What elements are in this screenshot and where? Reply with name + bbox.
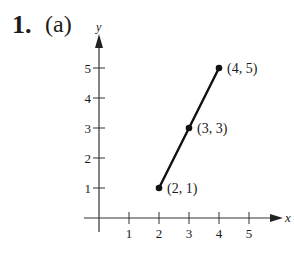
data-point — [186, 125, 193, 132]
y-tick-label: 3 — [85, 121, 92, 136]
x-tick-label: 4 — [216, 226, 223, 241]
x-tick-label: 1 — [126, 226, 133, 241]
data-point — [216, 65, 223, 72]
y-tick-label: 2 — [85, 151, 92, 166]
point-label: (2, 1) — [167, 181, 198, 197]
point-label: (3, 3) — [197, 121, 228, 137]
y-tick-label: 1 — [85, 181, 92, 196]
y-tick-label: 5 — [85, 61, 92, 76]
data-point — [156, 185, 163, 192]
ticks: 1234512345 — [85, 61, 253, 241]
y-tick-label: 4 — [85, 91, 92, 106]
x-tick-label: 2 — [156, 226, 163, 241]
y-axis-label: y — [95, 20, 102, 34]
x-axis-label: x — [284, 210, 291, 225]
x-tick-label: 3 — [186, 226, 193, 241]
y-axis-arrow-icon — [95, 34, 103, 48]
x-tick-label: 5 — [246, 226, 253, 241]
point-label: (4, 5) — [227, 61, 258, 77]
coordinate-plot: xy 1234512345 (2, 1)(3, 3)(4, 5) — [0, 0, 294, 263]
x-axis-arrow-icon — [270, 214, 283, 222]
